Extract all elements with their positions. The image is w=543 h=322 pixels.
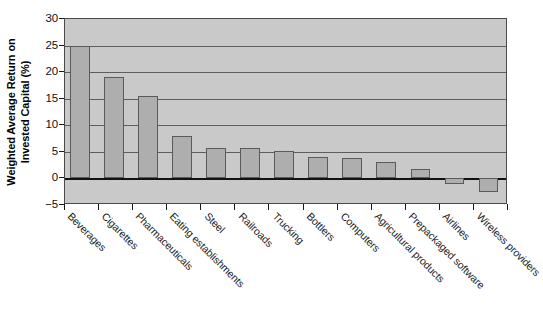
bar-slot <box>133 19 167 203</box>
y-tick-label: 0 <box>34 171 58 183</box>
bar-slot <box>65 19 99 203</box>
bar-slot <box>338 19 372 203</box>
bar-slot <box>269 19 303 203</box>
bar-slot <box>406 19 440 203</box>
x-axis-tick-labels: BeveragesCigarettesPharmaceuticalsEating… <box>64 210 519 322</box>
y-tick-mark <box>59 204 64 205</box>
bar-series <box>65 19 506 203</box>
y-tick-label: 15 <box>34 92 58 104</box>
bar[interactable] <box>240 148 260 179</box>
bar[interactable] <box>138 96 158 179</box>
bar-slot <box>235 19 269 203</box>
bar[interactable] <box>274 151 294 179</box>
bar[interactable] <box>104 77 124 178</box>
y-tick-label: 5 <box>34 145 58 157</box>
bar[interactable] <box>308 157 328 178</box>
bar[interactable] <box>342 158 362 178</box>
x-tick-label: Bottlers <box>304 210 337 243</box>
bar-slot <box>99 19 133 203</box>
y-tick-mark <box>59 98 64 99</box>
y-tick-mark <box>59 177 64 178</box>
x-tick-label: Wireless providers <box>475 210 543 278</box>
y-tick-mark <box>59 71 64 72</box>
y-tick-label: 10 <box>34 118 58 130</box>
bar[interactable] <box>411 169 431 178</box>
bar[interactable] <box>445 178 465 183</box>
y-tick-mark <box>59 45 64 46</box>
plot-area <box>64 18 507 204</box>
y-axis-title-line-1: Weighted Average Return on <box>5 38 19 185</box>
bar[interactable] <box>206 148 226 179</box>
y-axis-title: Weighted Average Return on Invested Capi… <box>0 14 36 210</box>
y-tick-mark <box>59 124 64 125</box>
bar-slot <box>440 19 474 203</box>
x-tick-label: Pharmaceuticals <box>134 210 196 272</box>
y-tick-label: 30 <box>34 12 58 24</box>
y-axis-title-line-2: Invested Capital (%) <box>18 38 32 185</box>
bar[interactable] <box>376 162 396 178</box>
x-tick-label: Airlines <box>441 210 473 242</box>
y-tick-mark <box>59 151 64 152</box>
x-tick-label: Steel <box>202 210 227 235</box>
y-tick-label: 25 <box>34 39 58 51</box>
bar-slot <box>201 19 235 203</box>
bar-slot <box>474 19 508 203</box>
y-tick-label: 20 <box>34 65 58 77</box>
bar-slot <box>372 19 406 203</box>
bar[interactable] <box>172 136 192 179</box>
y-axis-tick-labels: 302520151050−5 <box>34 0 58 322</box>
x-tick-label: Railroads <box>236 210 275 249</box>
y-tick-label: −5 <box>34 198 58 210</box>
bar-slot <box>304 19 338 203</box>
y-tick-mark <box>59 18 64 19</box>
bar[interactable] <box>70 46 90 179</box>
bar-slot <box>167 19 201 203</box>
bar[interactable] <box>479 178 499 191</box>
